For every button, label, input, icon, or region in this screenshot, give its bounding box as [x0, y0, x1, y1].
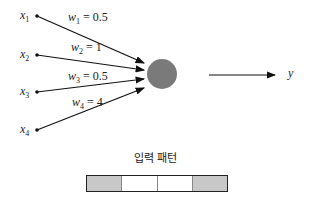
weight-label-w1: w1 = 0.5: [68, 10, 108, 26]
output-label-y: y: [288, 66, 293, 81]
weight-label-w2: w2 = 1: [71, 40, 102, 56]
input-label-x4: x4: [20, 122, 29, 138]
input-node-4: [35, 128, 39, 132]
pattern-cell-3: [158, 176, 193, 191]
pattern-cell-1: [87, 176, 122, 191]
input-label-x2: x2: [20, 47, 29, 63]
input-label-x3: x3: [20, 84, 29, 100]
pattern-cell-2: [122, 176, 157, 191]
input-node-2: [35, 53, 39, 57]
edge-x2: [37, 55, 144, 70]
pattern-cell-4: [193, 176, 227, 191]
input-node-3: [35, 90, 39, 94]
pattern-title: 입력 패턴: [0, 149, 311, 165]
input-label-x1: x1: [20, 8, 29, 24]
input-node-1: [35, 14, 39, 18]
input-pattern: [86, 175, 228, 192]
weight-label-w4: w4 = 4: [72, 95, 103, 111]
neuron-circle: [147, 59, 177, 89]
weight-label-w3: w3 = 0.5: [68, 69, 108, 85]
